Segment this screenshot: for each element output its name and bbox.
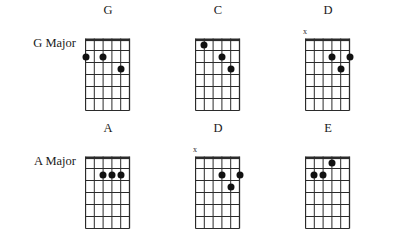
fretboard-grid bbox=[195, 156, 239, 228]
finger-dot bbox=[320, 171, 327, 178]
chord-diagram: E bbox=[274, 120, 382, 237]
finger-dot bbox=[117, 171, 124, 178]
fretboard-grid bbox=[305, 38, 349, 110]
finger-dot bbox=[328, 53, 335, 60]
chord-name: D bbox=[274, 2, 382, 18]
fretboard-grid bbox=[195, 38, 239, 110]
chord-name: E bbox=[274, 120, 382, 136]
grid-lines bbox=[195, 156, 241, 230]
chord-diagram: G bbox=[54, 2, 162, 120]
fretboard-wrap bbox=[85, 146, 131, 230]
chord-name: G bbox=[54, 2, 162, 18]
chord-diagram: A bbox=[54, 120, 162, 237]
muted-string-row bbox=[85, 28, 131, 38]
muted-string-row: x bbox=[195, 146, 241, 156]
fretboard-grid bbox=[85, 156, 129, 228]
fretboard-wrap bbox=[305, 146, 351, 230]
finger-dot bbox=[108, 171, 115, 178]
fretboard-grid bbox=[305, 156, 349, 228]
finger-dot bbox=[201, 41, 208, 48]
fretboard-wrap: x bbox=[195, 146, 241, 230]
fretboard-wrap bbox=[85, 28, 131, 112]
fretboard-wrap bbox=[195, 28, 241, 112]
finger-dot bbox=[117, 65, 124, 72]
grid-lines bbox=[85, 156, 131, 230]
finger-dot bbox=[100, 171, 107, 178]
mute-x-icon: x bbox=[303, 27, 307, 36]
finger-dot bbox=[328, 159, 335, 166]
finger-dot bbox=[311, 171, 318, 178]
fretboard-wrap: x bbox=[305, 28, 351, 112]
chord-diagram: Dx bbox=[274, 2, 382, 120]
muted-string-row bbox=[85, 146, 131, 156]
grid-lines bbox=[85, 38, 131, 112]
fretboard-grid bbox=[85, 38, 129, 110]
grid-lines bbox=[305, 38, 351, 112]
finger-dot bbox=[236, 171, 243, 178]
chord-name: D bbox=[164, 120, 272, 136]
chord-name: C bbox=[164, 2, 272, 18]
finger-dot bbox=[227, 65, 234, 72]
finger-dot bbox=[218, 53, 225, 60]
finger-dot bbox=[227, 183, 234, 190]
chord-row: G MajorGCDx bbox=[0, 2, 397, 120]
chord-row: A MajorADxE bbox=[0, 120, 397, 237]
chord-chart: G MajorGCDxA MajorADxE bbox=[0, 0, 397, 237]
chord-diagram: Dx bbox=[164, 120, 272, 237]
muted-string-row: x bbox=[305, 28, 351, 38]
mute-x-icon: x bbox=[193, 145, 197, 154]
grid-lines bbox=[305, 156, 351, 230]
finger-dot bbox=[82, 53, 89, 60]
finger-dot bbox=[346, 53, 353, 60]
grid-lines bbox=[195, 38, 241, 112]
finger-dot bbox=[337, 65, 344, 72]
muted-string-row bbox=[195, 28, 241, 38]
finger-dot bbox=[100, 53, 107, 60]
chord-diagram: C bbox=[164, 2, 272, 120]
chord-name: A bbox=[54, 120, 162, 136]
muted-string-row bbox=[305, 146, 351, 156]
finger-dot bbox=[218, 171, 225, 178]
